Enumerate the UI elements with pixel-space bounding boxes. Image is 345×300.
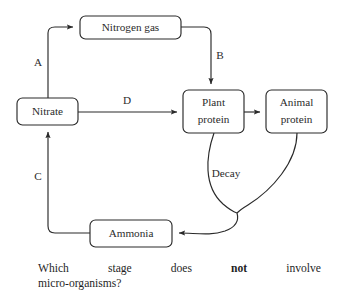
edge-label-c: C	[34, 170, 41, 182]
edge-c-ammonia-to-nitrate	[48, 132, 90, 233]
node-label-animal-protein-line1: Animal	[280, 96, 314, 108]
question-line-2: micro-organisms?	[38, 276, 321, 291]
question-block: Which stage does not involve micro-organ…	[38, 261, 321, 291]
node-label-nitrate: Nitrate	[32, 105, 63, 117]
node-label-animal-protein-line2: protein	[281, 113, 313, 125]
edge-label-b: B	[216, 49, 223, 61]
edge-label-d: D	[123, 94, 131, 106]
question-word-does: does	[171, 261, 192, 276]
question-word-which: Which	[38, 261, 69, 276]
edge-a-nitrate-to-nitrogen-gas	[48, 27, 73, 98]
node-label-plant-protein-line1: Plant	[202, 96, 226, 108]
diagram-canvas: Nitrogen gas Nitrate Plant protein Anima…	[0, 0, 345, 258]
question-line-1: Which stage does not involve	[38, 261, 321, 276]
question-word-involve: involve	[286, 261, 321, 276]
edge-label-a: A	[34, 56, 42, 68]
edge-label-decay: Decay	[212, 167, 241, 179]
question-word-not: not	[231, 261, 247, 276]
question-word-stage: stage	[108, 261, 132, 276]
node-label-ammonia: Ammonia	[109, 227, 154, 239]
node-label-plant-protein-line2: protein	[198, 113, 230, 125]
nitrogen-cycle-diagram: Nitrogen gas Nitrate Plant protein Anima…	[0, 0, 345, 258]
edge-decay-to-ammonia	[179, 213, 238, 234]
node-label-nitrogen-gas: Nitrogen gas	[102, 21, 159, 33]
edge-b-nitrogen-gas-to-plant-protein	[181, 27, 211, 84]
edge-decay-animal-protein-branch	[237, 133, 297, 213]
